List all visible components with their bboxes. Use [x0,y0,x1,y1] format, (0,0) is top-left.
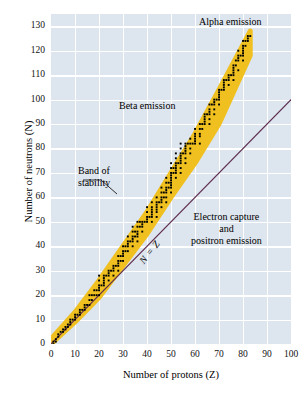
data-point [127,250,129,252]
plot-area: Alpha emission Beta emission Band of sta… [51,14,291,344]
y-axis-title: Number of neutrons (N) [23,82,34,262]
data-point [77,314,79,316]
data-point [120,260,122,262]
x-tick-label: 90 [262,350,272,360]
data-point [151,216,153,218]
data-point [245,40,247,42]
annotation-electron-capture: Electron capture and positron emission [191,211,262,246]
data-point [209,113,211,115]
annotation-band-of-stability: Band of stability [78,165,110,189]
data-point [132,238,134,240]
data-point [67,324,69,326]
data-point [189,152,191,154]
data-point [89,304,91,306]
data-point [103,282,105,284]
data-point [180,167,182,169]
data-point [161,192,163,194]
data-point [223,86,225,88]
gridline-horizontal [51,320,291,321]
data-point [204,113,206,115]
data-point [199,143,201,145]
data-point [117,255,119,257]
x-tick-label: 10 [70,350,80,360]
data-point [180,143,182,145]
data-point [151,214,153,216]
data-point [156,206,158,208]
data-point [175,165,177,167]
data-point [168,187,170,189]
data-point [233,69,235,71]
x-tick-label: 50 [166,350,176,360]
data-point [228,77,230,79]
data-point [151,206,153,208]
data-point [209,111,211,113]
data-point [57,333,59,335]
data-point [175,152,177,154]
data-point [185,143,187,145]
data-point [213,113,215,115]
data-point [105,275,107,277]
data-point [132,240,134,242]
data-point [86,304,88,306]
data-point [185,152,187,154]
data-point [223,79,225,81]
data-point [69,324,71,326]
x-tick-label: 80 [238,350,248,360]
data-point [156,211,158,213]
data-point [137,236,139,238]
data-point [249,35,251,37]
x-tick-label: 0 [49,350,54,360]
data-point [93,289,95,291]
data-point [189,143,191,145]
data-point [245,45,247,47]
x-tick-label: 40 [142,350,152,360]
data-point [129,240,131,242]
annotation-ec-line1: Electron capture [191,211,262,223]
y-tick-label: 120 [16,46,45,56]
data-point [165,187,167,189]
data-point [103,284,105,286]
data-point [185,150,187,152]
data-point [156,216,158,218]
gridline-horizontal [51,51,291,52]
gridline-horizontal [51,148,291,149]
data-point [137,233,139,235]
data-point [158,201,160,203]
data-point [180,155,182,157]
data-point [113,275,115,277]
data-point [55,341,57,343]
data-point [175,177,177,179]
data-point [132,231,134,233]
data-point [115,265,117,267]
data-point [165,182,167,184]
data-point [247,40,249,42]
data-point [185,162,187,164]
data-point [127,236,129,238]
data-point [141,231,143,233]
data-point [141,223,143,225]
data-point [161,199,163,201]
data-point [180,152,182,154]
band-of-stability-chart: Alpha emission Beta emission Band of sta… [0,0,302,394]
annotation-band-line1: Band of [78,165,110,177]
data-point [189,138,191,140]
annotation-ec-line3: positron emission [191,235,262,247]
data-point [151,209,153,211]
annotation-ec-line2: and [191,223,262,235]
data-point [173,167,175,169]
data-point [223,82,225,84]
x-tick-label: 100 [284,350,298,360]
data-point [175,157,177,159]
data-point [235,64,237,66]
data-point [240,55,242,57]
data-point [139,226,141,228]
data-point [108,280,110,282]
data-point [165,192,167,194]
y-tick-label: 30 [16,266,45,276]
data-point [175,170,177,172]
data-point [137,240,139,242]
data-point [237,55,239,57]
data-point [149,216,151,218]
data-point [180,157,182,159]
data-point [62,331,64,333]
